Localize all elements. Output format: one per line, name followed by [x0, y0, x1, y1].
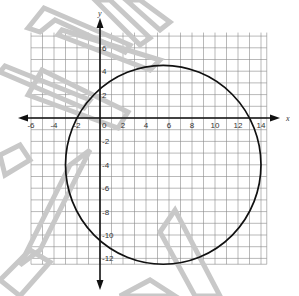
x-tick-label: -4: [50, 121, 58, 130]
x-tick-label: 8: [190, 121, 195, 130]
watermark-shape: [0, 145, 30, 175]
x-tick-label: 0: [102, 121, 107, 130]
watermark-shape: [0, 250, 50, 296]
x-tick-label: -6: [27, 121, 35, 130]
coordinate-plane: -6-4-202468101214642-2-4-6-8-10-12xy: [0, 0, 299, 296]
y-tick-label: -10: [102, 231, 114, 240]
y-axis-up-arrow-icon: [97, 18, 104, 28]
y-tick-label: -8: [102, 208, 110, 217]
watermark-shapes: [0, 0, 220, 296]
x-axis-right-arrow-icon: [270, 115, 280, 122]
x-tick-label: 14: [257, 121, 266, 130]
y-tick-label: -2: [102, 137, 110, 146]
x-tick-label: 4: [144, 121, 149, 130]
x-tick-label: 12: [234, 121, 243, 130]
y-tick-label: 4: [102, 67, 107, 76]
y-tick-label: 2: [102, 91, 107, 100]
x-tick-label: 2: [121, 121, 126, 130]
y-axis-down-arrow-icon: [97, 280, 104, 290]
x-tick-label: -2: [73, 121, 81, 130]
tick-labels: -6-4-202468101214642-2-4-6-8-10-12xy: [27, 9, 290, 263]
watermark-shape: [160, 210, 220, 296]
x-tick-label: 6: [167, 121, 172, 130]
watermark-shape: [120, 280, 175, 296]
y-tick-label: -4: [102, 161, 110, 170]
y-tick-label: 6: [102, 44, 107, 53]
watermark-shape: [126, 0, 170, 30]
y-tick-label: -12: [102, 254, 114, 263]
x-tick-label: 10: [211, 121, 220, 130]
y-axis-label: y: [97, 9, 102, 18]
x-axis-label: x: [285, 114, 290, 123]
y-tick-label: -6: [102, 184, 110, 193]
watermark-shape: [95, 0, 150, 45]
